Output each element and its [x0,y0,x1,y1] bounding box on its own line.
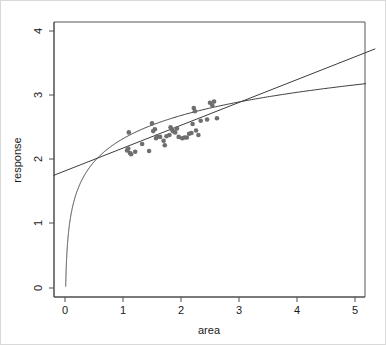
data-point [161,138,166,143]
data-point [189,131,194,136]
plot-background [0,0,386,345]
data-point [129,152,134,157]
x-tick-label-2: 2 [178,304,184,316]
y-tick-label-4: 4 [32,28,44,34]
x-axis-title: area [198,324,221,336]
data-point [147,149,152,154]
data-point [193,109,198,114]
data-point [133,149,138,154]
y-tick-label-0: 0 [32,285,44,291]
x-tick-label-5: 5 [352,304,358,316]
data-point [162,143,167,148]
x-tick-label-3: 3 [236,304,242,316]
x-tick-label-1: 1 [120,304,126,316]
data-point [167,133,172,138]
data-point [158,135,163,140]
data-point [153,127,158,132]
data-point [215,116,220,121]
x-tick-label-4: 4 [294,304,300,316]
data-point [126,146,131,151]
data-point [196,133,201,138]
scatter-plot: 0 1 2 3 4 5 0 1 2 3 4 are [0,0,386,345]
data-point [205,117,210,122]
data-point [190,122,195,127]
data-point [212,99,217,104]
data-point [198,119,203,124]
data-point [185,135,190,140]
data-point [127,130,132,135]
y-axis-title: response [11,137,23,182]
data-point [140,142,145,147]
y-tick-label-1: 1 [32,220,44,226]
data-point [150,121,155,126]
y-tick-label-3: 3 [32,92,44,98]
y-tick-label-2: 2 [32,156,44,162]
data-point [194,128,199,133]
data-point [175,126,180,131]
chart-page: 0 1 2 3 4 5 0 1 2 3 4 are [0,0,386,345]
x-tick-label-0: 0 [62,304,68,316]
